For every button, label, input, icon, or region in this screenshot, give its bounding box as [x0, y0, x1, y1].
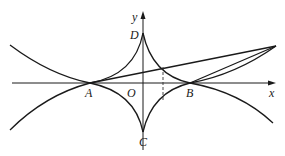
- left-upper-curve: [10, 45, 90, 83]
- right-lower-curve: [190, 83, 273, 123]
- point-D-label: D: [129, 28, 139, 42]
- y-axis-label: y: [131, 10, 138, 24]
- point-A-label: A: [84, 86, 93, 100]
- left-lower-curve: [10, 83, 90, 130]
- y-axis-arrow-icon: [141, 11, 146, 19]
- line-B-to-P: [190, 46, 276, 83]
- diagram-canvas: y D A O B x C: [0, 0, 285, 156]
- point-B-label: B: [186, 86, 194, 100]
- x-axis-arrow-icon: [268, 81, 276, 86]
- x-axis-label: x: [268, 86, 275, 100]
- x-axis: [12, 81, 276, 86]
- line-A-to-P: [90, 46, 276, 83]
- curve-D-to-B: [143, 33, 190, 83]
- point-C-label: C: [139, 135, 148, 149]
- curve-C-to-B: [143, 83, 190, 132]
- origin-label: O: [127, 86, 136, 100]
